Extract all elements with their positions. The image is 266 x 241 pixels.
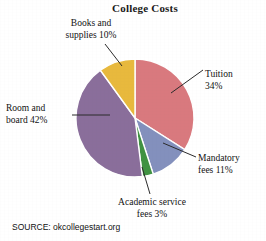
pie-svg bbox=[75, 58, 195, 178]
slice-label-tuition-line1: Tuition bbox=[205, 69, 261, 81]
slice-label-books-line1: Books and bbox=[48, 18, 134, 30]
slice-label-mandatory-fees: Mandatory fees 11% bbox=[198, 153, 262, 176]
slice-label-mandatory-line2: fees 11% bbox=[198, 165, 262, 177]
chart-title: College Costs bbox=[0, 2, 266, 14]
pie-chart bbox=[75, 58, 195, 178]
source-note: SOURCE: okcollegestart.org bbox=[12, 222, 120, 232]
slice-label-room-line1: Room and bbox=[6, 103, 72, 115]
slice-label-academic-line2: fees 3% bbox=[96, 209, 208, 221]
slice-label-room-and-board: Room and board 42% bbox=[6, 103, 72, 126]
slice-label-academic-line1: Academic service bbox=[96, 197, 208, 209]
slice-label-tuition: Tuition 34% bbox=[205, 69, 261, 92]
chart-canvas: College Costs Books and supplies 10% bbox=[0, 0, 266, 241]
slice-label-books-and-supplies: Books and supplies 10% bbox=[48, 18, 134, 41]
slice-label-room-line2: board 42% bbox=[6, 115, 72, 127]
slice-label-tuition-line2: 34% bbox=[205, 81, 261, 93]
slice-label-books-line2: supplies 10% bbox=[48, 30, 134, 42]
slice-label-academic-service-fees: Academic service fees 3% bbox=[96, 197, 208, 220]
slice-label-mandatory-line1: Mandatory bbox=[198, 153, 262, 165]
